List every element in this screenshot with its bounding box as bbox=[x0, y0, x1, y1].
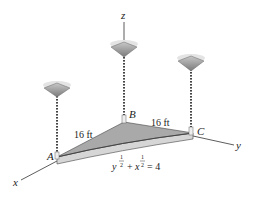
eq-exp1-den: 2 bbox=[120, 162, 123, 168]
y-axis-label: y bbox=[235, 139, 241, 151]
x-axis-label: x bbox=[12, 176, 18, 188]
dimension-AB: 16 ft bbox=[74, 129, 93, 140]
x-axis bbox=[21, 161, 57, 180]
plate-suspension-diagram: z x y bbox=[0, 0, 257, 200]
eq-y: y bbox=[111, 161, 117, 172]
ceiling-mount-C-icon bbox=[177, 54, 205, 71]
point-B-label: B bbox=[129, 108, 136, 120]
rod-A bbox=[55, 96, 59, 159]
rod-B bbox=[122, 56, 126, 123]
rod-C bbox=[189, 70, 193, 135]
y-axis bbox=[193, 136, 234, 145]
point-C-label: C bbox=[197, 125, 205, 137]
eq-exp2-num: 1 bbox=[141, 154, 144, 160]
eq-rhs: = 4 bbox=[147, 161, 160, 172]
eq-plus: + bbox=[127, 161, 133, 172]
ceiling-mount-A-icon bbox=[43, 81, 71, 97]
curve-equation: y 1 2 + x 1 2 = 4 bbox=[111, 154, 160, 172]
point-A-label: A bbox=[46, 150, 54, 162]
eq-exp2-den: 2 bbox=[141, 162, 144, 168]
dimension-BC: 16 ft bbox=[151, 117, 170, 128]
z-axis-label: z bbox=[120, 9, 126, 21]
eq-x: x bbox=[134, 161, 140, 172]
ceiling-mount-B-icon bbox=[110, 40, 138, 57]
eq-exp1-num: 1 bbox=[120, 154, 123, 160]
